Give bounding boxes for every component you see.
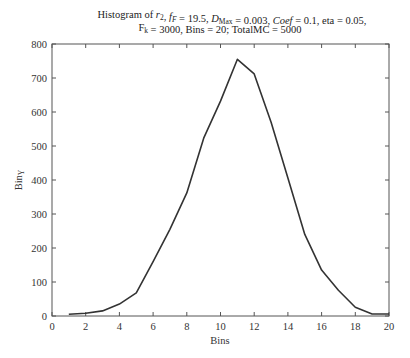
x-tick-label: 2 (83, 321, 88, 332)
y-tick-label: 400 (31, 175, 47, 186)
title-fragment: = 3000, Bins = 20; TotalMC = 5000 (148, 24, 302, 35)
y-tick-label: 100 (31, 277, 47, 288)
plot-area-frame (52, 44, 389, 316)
x-tick-label: 10 (215, 321, 226, 332)
y-axis-label: BinY (13, 169, 26, 190)
x-tick-label: 20 (384, 321, 395, 332)
x-tick-label: 18 (350, 321, 361, 332)
histogram-line (69, 59, 389, 314)
chart-title-line2: Fk = 3000, Bins = 20; TotalMC = 5000 (138, 22, 301, 35)
x-tick-label: 8 (184, 321, 189, 332)
x-axis-label: Bins (210, 335, 229, 346)
title-fragment: = 0.1, eta = 0.05, (293, 15, 367, 26)
y-tick-label: 700 (31, 73, 47, 84)
x-tick-label: 0 (49, 321, 54, 332)
x-tick-label: 16 (316, 321, 327, 332)
y-tick-label: 300 (31, 209, 47, 220)
x-tick-label: 6 (150, 321, 155, 332)
x-tick-label: 14 (283, 321, 294, 332)
y-tick-label: 600 (31, 107, 47, 118)
y-tick-label: 800 (31, 39, 47, 50)
y-tick-label: 500 (31, 141, 47, 152)
x-axis-ticks: 02468101214161820 (49, 44, 394, 332)
title-fragment: = 19.5, (176, 13, 211, 24)
title-fragment: Histogram of (98, 9, 156, 20)
y-tick-label: 200 (31, 243, 47, 254)
histogram-chart: Histogram of r2, fF = 19.5, DMax = 0.003… (0, 0, 410, 358)
y-axis-label-sub: Y (17, 169, 26, 175)
x-tick-label: 4 (117, 321, 123, 332)
y-axis-label-main: Bin (13, 174, 24, 190)
y-axis-ticks: 0100200300400500600700800 (31, 39, 389, 322)
x-tick-label: 12 (249, 321, 260, 332)
y-tick-label: 0 (42, 311, 47, 322)
